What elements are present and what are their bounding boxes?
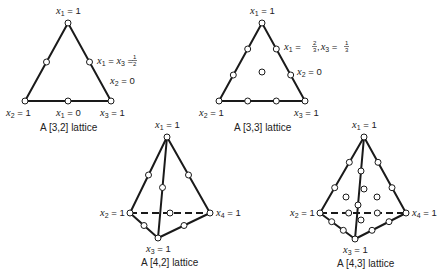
lattice-point	[186, 172, 192, 178]
label-right-edge-point: x1 = x3 =	[96, 55, 134, 67]
fraction-denominator: 2	[133, 61, 137, 67]
lattice-point	[346, 210, 352, 216]
vertex-x4	[403, 210, 409, 216]
label-right-edge: x2 = 0	[109, 75, 135, 87]
lattice-point	[346, 159, 352, 165]
face-centroid	[374, 194, 380, 200]
fraction-numerator: 1	[133, 54, 137, 60]
label-bottom: x3 = 1	[342, 244, 368, 256]
vertex-x2	[317, 210, 323, 216]
lattice-point	[375, 159, 381, 165]
lattice-point	[146, 172, 152, 178]
centroid-point	[259, 69, 265, 75]
vertex-x2	[127, 210, 133, 216]
face-centroid	[361, 186, 367, 192]
lattice-4-3: x1 = 1 x2 = 1 x4 = 1 x3 = 1 A [4,3] latt…	[289, 119, 437, 269]
vertex-x3	[108, 98, 114, 104]
label-bottom-left: x2 = 1	[198, 107, 224, 119]
vertex-x1	[361, 134, 367, 140]
lattice-point	[167, 210, 173, 216]
label-right-edge-point-2: ,x3 =	[317, 41, 338, 53]
lattice-point	[245, 46, 251, 52]
label-bottom-right: x3 = 1	[293, 107, 319, 119]
label-top: x1 = 1	[55, 5, 81, 17]
lattice-3-2: x1 = 1 x2 = 1 x1 = 0 x3 = 1 x1 = x3 = 1 …	[5, 5, 137, 133]
lattice-point	[288, 72, 294, 78]
face-centroid	[343, 194, 349, 200]
edge-x3-x4	[355, 213, 406, 239]
lattice-point	[181, 223, 187, 229]
fraction-numerator: 1	[345, 40, 349, 46]
lattice-point	[355, 202, 361, 208]
fraction-denominator: 3	[345, 47, 349, 53]
label-right: x4 = 1	[215, 207, 241, 219]
label-right: x4 = 1	[411, 207, 437, 219]
edge-x1-x4	[364, 137, 406, 213]
lattice-point	[329, 219, 335, 225]
lattice-point	[369, 227, 375, 233]
lattice-point	[230, 72, 236, 78]
vertex-x1	[259, 20, 265, 26]
lattice-point	[245, 98, 251, 104]
lattice-point	[386, 219, 392, 225]
simplex-lattice-figure: x1 = 1 x2 = 1 x1 = 0 x3 = 1 x1 = x3 = 1 …	[0, 0, 445, 273]
lattice-4-2: x1 = 1 x2 = 1 x4 = 1 x3 = 1 A [4,2] latt…	[99, 119, 241, 268]
edge-x2-x3	[320, 213, 355, 239]
lattice-point	[389, 185, 395, 191]
caption-4-3: A [4,3] lattice	[337, 258, 395, 269]
lattice-point	[273, 46, 279, 52]
caption-4-2: A [4,2] lattice	[141, 257, 199, 268]
lattice-point	[374, 210, 380, 216]
caption-3-2: A [3,2] lattice	[40, 122, 98, 133]
lattice-point	[141, 223, 147, 229]
lattice-point	[160, 185, 166, 191]
vertex-x3	[155, 235, 161, 241]
vertex-x2	[216, 98, 222, 104]
caption-3-3: A [3,3] lattice	[234, 122, 292, 133]
lattice-point	[340, 227, 346, 233]
vertex-x1	[164, 134, 170, 140]
lattice-point	[273, 98, 279, 104]
face-centroid	[358, 217, 364, 223]
lattice-3-3: x1 = 1 x2 = 1 x3 = 1 x1 = 2 3 ,x3 = 1 3 …	[198, 5, 349, 133]
label-bottom-left: x2 = 1	[5, 107, 31, 119]
vertex-x1	[65, 20, 71, 26]
vertex-x4	[207, 210, 213, 216]
label-bottom-mid: x1 = 0	[55, 107, 81, 119]
lattice-point	[65, 98, 71, 104]
label-left: x2 = 1	[99, 207, 125, 219]
label-left: x2 = 1	[289, 207, 315, 219]
lattice-point	[358, 168, 364, 174]
vertex-x2	[22, 98, 28, 104]
label-bottom: x3 = 1	[145, 243, 171, 255]
label-bottom-right: x3 = 1	[99, 107, 125, 119]
vertex-x3	[302, 98, 308, 104]
triangle-outline	[219, 23, 305, 101]
label-right-edge-point: x1 =	[283, 41, 301, 53]
vertex-x3	[352, 236, 358, 242]
label-top: x1 = 1	[249, 5, 275, 17]
label-right-edge: x2 = 0	[296, 66, 322, 78]
label-top: x1 = 1	[154, 119, 180, 131]
label-top: x1 = 1	[351, 119, 377, 131]
lattice-point	[87, 59, 93, 65]
lattice-point	[44, 59, 50, 65]
lattice-point	[332, 185, 338, 191]
